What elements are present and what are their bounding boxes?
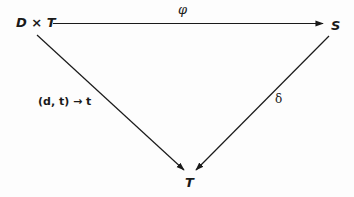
node-t-bottom: T	[185, 176, 194, 190]
label-phi: φ	[178, 2, 187, 17]
label-projection: (d, t) → t	[38, 95, 91, 108]
diagram-canvas: D × T S T φ (d, t) → t δ	[0, 0, 354, 197]
node-product-d-x-t: D × T	[16, 16, 56, 30]
arrow-delta	[196, 36, 329, 170]
node-s: S	[331, 19, 340, 33]
label-delta: δ	[275, 92, 282, 106]
